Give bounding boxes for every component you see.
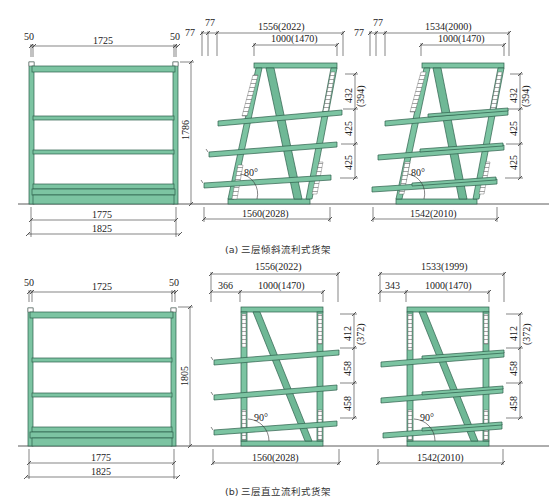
dim-left-offset: 366 [218, 280, 233, 291]
dim-tier-3: 425 [508, 155, 519, 170]
racking-diagram: 50 1725 50 1786 177 [0, 0, 549, 500]
front-view-b: 50 1725 50 1805 1775 1825 [24, 277, 193, 479]
dim-bottom-inner-width: 1775 [91, 452, 111, 463]
dim-offset-2: 77 [373, 17, 383, 28]
side-view-a1: 77 77 1556(2022) 1000(1470) [185, 17, 367, 222]
angle-label: 90° [254, 412, 268, 423]
top-beam [32, 66, 175, 72]
dim-top-span: 1000(1470) [271, 33, 318, 45]
top-member [241, 307, 323, 312]
dim-tier-2: 458 [342, 361, 353, 376]
dim-left-offset: 50 [24, 277, 34, 288]
angle-label: 80° [244, 167, 258, 178]
dim-tier-3: 425 [343, 155, 354, 170]
dim-tier-1-alt: (372) [521, 323, 533, 345]
dim-top-span: 1000(1470) [425, 280, 472, 292]
top-beam [30, 312, 173, 318]
shelf-beam [32, 393, 172, 397]
side-view-a2: 77 77 1534(2000) 1000(1470) 80° [354, 17, 532, 222]
dim-bottom-total-width: 1825 [92, 223, 112, 234]
upright-right [173, 62, 178, 204]
shelf-beam [33, 184, 174, 189]
dim-tier-3: 458 [508, 396, 519, 411]
base-beam [32, 438, 172, 446]
dim-tier-1-alt: (394) [520, 85, 532, 107]
base-beam [32, 189, 175, 195]
dim-bottom-total-width: 1825 [91, 466, 111, 477]
base-member [228, 199, 310, 204]
caption-a: (a) 三层倾斜流利式货架 [225, 244, 331, 255]
dim-tier-1-alt: (372) [355, 323, 367, 345]
shelf-beam [32, 427, 172, 432]
dim-top-inner-width: 1725 [93, 35, 113, 46]
dim-top-span: 1000(1470) [258, 280, 305, 292]
dim-top-total: 1556(2022) [258, 21, 305, 33]
front-view-a: 50 1725 50 1786 177 [24, 31, 194, 237]
base-member [396, 199, 477, 204]
upright-left [29, 62, 34, 204]
side-view-b1: 1556(2022) 366 1000(1470) 90° [209, 261, 367, 465]
dim-top-inner-width: 1725 [92, 281, 112, 292]
dim-left-offset: 343 [385, 280, 400, 291]
shelf-beam [33, 150, 174, 154]
dim-tier-3: 458 [342, 396, 353, 411]
caption-b: (b) 三层直立流利式货架 [225, 486, 331, 497]
dim-top-total: 1556(2022) [255, 261, 302, 273]
side-view-b2: 1533(1999) 343 1000(1470) 90° [376, 261, 533, 465]
dim-top-total: 1533(1999) [421, 261, 468, 273]
dim-top-total: 1534(2000) [425, 21, 472, 33]
dim-left-offset: 50 [24, 31, 34, 42]
dim-tier-1-alt: (394) [355, 85, 367, 107]
dim-base-width: 1560(2028) [252, 452, 299, 464]
dim-tier-1: 412 [508, 326, 519, 341]
dim-offset-1: 77 [354, 27, 364, 38]
angle-label: 80° [411, 167, 425, 178]
shelf-beam [32, 358, 172, 362]
part-b: 50 1725 50 1805 1775 1825 [18, 261, 549, 497]
dim-offset-2: 77 [205, 17, 215, 28]
dim-height: 1786 [180, 120, 191, 140]
angle-label: 90° [420, 412, 434, 423]
upright-left [28, 308, 33, 446]
shelf-beam [33, 116, 174, 120]
inclined-leg-left [396, 68, 430, 199]
dim-base-width: 1560(2028) [242, 208, 289, 220]
dim-right-offset: 50 [170, 31, 180, 42]
dim-right-offset: 50 [169, 277, 179, 288]
top-member [407, 307, 489, 312]
base-beam [30, 432, 173, 438]
dim-tier-1: 432 [343, 88, 354, 103]
base-beam [33, 195, 174, 204]
base-member [241, 441, 323, 446]
part-a: 50 1725 50 1786 177 [18, 17, 549, 255]
upright-right [171, 308, 176, 446]
dim-offset-1: 77 [185, 27, 195, 38]
dim-height: 1805 [179, 366, 190, 386]
dim-base-width: 1542(2010) [417, 452, 464, 464]
top-member [254, 63, 337, 68]
dim-top-span: 1000(1470) [438, 33, 485, 45]
top-member [422, 63, 504, 68]
dim-bottom-inner-width: 1775 [92, 209, 112, 220]
dim-tier-2: 425 [508, 121, 519, 136]
base-member [407, 441, 489, 446]
dim-base-width: 1542(2010) [410, 208, 457, 220]
dim-tier-1: 412 [342, 326, 353, 341]
dim-tier-2: 425 [343, 121, 354, 136]
dim-tier-2: 458 [508, 361, 519, 376]
dim-tier-1: 432 [508, 88, 519, 103]
